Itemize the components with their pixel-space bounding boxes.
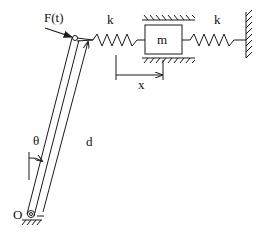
right-wall (246, 10, 252, 58)
force-label: F(t) (44, 10, 64, 25)
length-dimension (37, 42, 88, 216)
pivot-label: O (13, 207, 22, 222)
spring-left-label: k (107, 12, 114, 27)
pivot-support (22, 211, 42, 226)
force-arrow (45, 28, 72, 37)
spring-left (93, 34, 145, 46)
angle-label: θ (33, 133, 39, 148)
displacement-label: x (138, 77, 145, 92)
mass-label: m (157, 32, 167, 47)
spring-right-label: k (214, 12, 221, 27)
guide-bottom (142, 58, 195, 63)
top-pin (73, 36, 78, 41)
length-label: d (86, 134, 93, 149)
mechanical-diagram: F(t) k m k x θ d O (0, 0, 271, 238)
angle-indicator (29, 152, 42, 180)
guide-top (142, 15, 195, 20)
spring-right (182, 34, 246, 46)
pendulum-rod (27, 38, 79, 216)
